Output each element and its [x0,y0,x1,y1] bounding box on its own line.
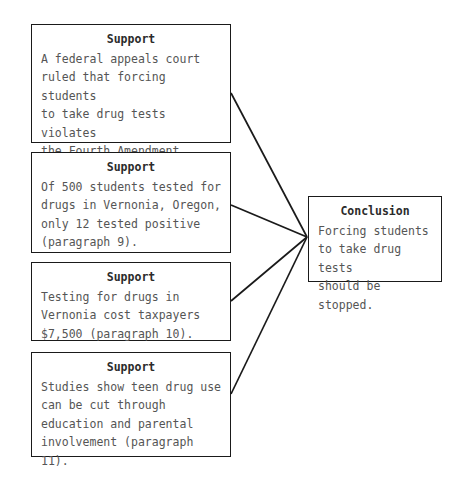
support-box-4[interactable]: Support Studies show teen drug use can b… [31,352,231,457]
support-box-4-heading: Support [41,359,221,376]
support-box-2[interactable]: Support Of 500 students tested for drugs… [31,152,231,253]
support-box-3-text: Testing for drugs in Vernonia cost taxpa… [41,288,221,343]
support-box-2-heading: Support [41,159,221,176]
connector-support-1-to-conclusion [231,93,307,237]
connector-support-2-to-conclusion [231,205,307,237]
support-box-4-text: Studies show teen drug use can be cut th… [41,378,221,470]
support-box-1[interactable]: Support A federal appeals court ruled th… [31,24,231,143]
conclusion-box-heading: Conclusion [318,203,432,220]
support-box-2-text: Of 500 students tested for drugs in Vern… [41,178,221,252]
conclusion-box[interactable]: Conclusion Forcing students to take drug… [308,196,442,282]
support-box-3-heading: Support [41,269,221,286]
conclusion-box-text: Forcing students to take drug tests shou… [318,222,432,314]
support-box-3[interactable]: Support Testing for drugs in Vernonia co… [31,262,231,341]
connector-support-3-to-conclusion [231,237,307,301]
support-box-1-heading: Support [41,31,221,48]
connector-support-4-to-conclusion [231,237,307,394]
argument-diagram: Support A federal appeals court ruled th… [0,0,470,482]
